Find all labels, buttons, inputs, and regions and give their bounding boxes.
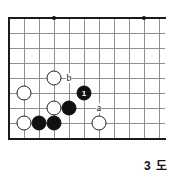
point-label-a[interactable]: a [96, 103, 101, 113]
star-point [52, 16, 56, 20]
grid-line-horizontal [9, 33, 165, 34]
stone-black-4-6[interactable] [62, 101, 77, 116]
grid-line-horizontal [9, 78, 165, 79]
board-edge-left [8, 17, 10, 140]
stone-white-1-7[interactable] [17, 116, 32, 131]
grid-line-horizontal [9, 108, 165, 109]
go-diagram: ba1 3 도 [0, 0, 174, 175]
board-edge-bottom [8, 138, 166, 140]
stone-white-1-5[interactable] [17, 86, 32, 101]
stone-white-3-6[interactable] [47, 101, 62, 116]
grid-line-horizontal [9, 48, 165, 49]
diagram-caption: 3 도 [144, 156, 168, 173]
stone-white-6-7[interactable] [92, 116, 107, 131]
grid-line-horizontal [9, 63, 165, 64]
star-point [142, 16, 146, 20]
stone-white-3-4[interactable] [47, 71, 62, 86]
stone-black-5-5[interactable]: 1 [77, 86, 92, 101]
stone-black-2-7[interactable] [32, 116, 47, 131]
go-board[interactable]: ba1 [0, 0, 174, 175]
point-label-b[interactable]: b [66, 73, 72, 83]
stone-move-number: 1 [82, 89, 86, 97]
stone-black-3-7[interactable] [47, 116, 62, 131]
